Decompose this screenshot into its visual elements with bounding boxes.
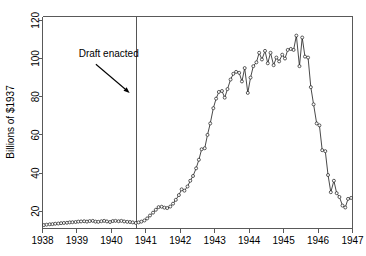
chart-annotations: Draft enacted	[79, 48, 139, 93]
y-tick-label: 40	[30, 167, 41, 179]
data-point-marker	[278, 60, 281, 63]
data-point-marker	[206, 133, 209, 136]
line-chart: 20406080100120 1938193919401941194219431…	[0, 0, 366, 256]
data-point-marker	[146, 217, 149, 220]
data-point-marker	[114, 219, 117, 222]
y-tick-label: 60	[30, 129, 41, 141]
data-point-marker	[215, 97, 218, 100]
data-point-marker	[344, 206, 347, 209]
data-point-marker	[123, 220, 126, 223]
x-tick-label: 1940	[100, 235, 123, 246]
data-point-marker	[217, 90, 220, 93]
y-tick-label: 80	[30, 91, 41, 103]
x-tick-label: 1944	[238, 235, 261, 246]
data-point-marker	[174, 198, 177, 201]
data-point-marker	[195, 167, 198, 170]
data-point-marker	[269, 51, 272, 54]
data-point-marker	[177, 194, 180, 197]
data-point-marker	[292, 48, 295, 51]
data-point-marker	[264, 49, 267, 52]
data-point-marker	[341, 204, 344, 207]
chart-container: 20406080100120 1938193919401941194219431…	[0, 0, 366, 256]
data-point-marker	[62, 221, 65, 224]
data-point-marker	[309, 86, 312, 89]
data-point-marker	[255, 61, 258, 64]
x-tick-label: 1941	[135, 235, 158, 246]
data-point-marker	[307, 56, 310, 59]
data-point-marker	[252, 65, 255, 68]
data-point-marker	[45, 223, 48, 226]
data-point-marker	[332, 179, 335, 182]
data-point-marker	[88, 220, 91, 223]
data-point-marker	[329, 191, 332, 194]
data-point-marker	[166, 207, 169, 210]
data-point-marker	[243, 67, 246, 70]
data-point-marker	[283, 57, 286, 60]
data-point-marker	[324, 150, 327, 153]
y-tick-label: 20	[30, 205, 41, 217]
data-point-marker	[350, 196, 353, 199]
data-point-marker	[148, 214, 151, 217]
x-tick-label: 1942	[169, 235, 192, 246]
data-point-marker	[301, 36, 304, 39]
data-point-marker	[240, 80, 243, 83]
data-point-marker	[223, 96, 226, 99]
data-point-marker	[272, 64, 275, 67]
data-point-marker	[266, 62, 269, 65]
data-point-marker	[105, 220, 108, 223]
series-line	[44, 36, 351, 225]
data-point-marker	[154, 208, 157, 211]
data-point-marker	[203, 147, 206, 150]
y-tick-label: 120	[30, 12, 41, 29]
data-point-marker	[295, 34, 298, 37]
data-point-marker	[318, 124, 321, 127]
data-point-marker	[140, 220, 143, 223]
data-point-marker	[220, 89, 223, 92]
data-point-marker	[186, 185, 189, 188]
data-point-marker	[235, 70, 238, 73]
data-point-marker	[172, 202, 175, 205]
data-point-marker	[192, 174, 195, 177]
y-axis-ticks: 20406080100120	[30, 12, 43, 217]
data-point-marker	[183, 189, 186, 192]
data-point-marker	[298, 65, 301, 68]
data-point-marker	[232, 72, 235, 75]
x-tick-label: 1946	[307, 235, 330, 246]
data-point-marker	[226, 88, 229, 91]
data-point-marker	[97, 220, 100, 223]
data-series	[42, 34, 352, 226]
y-tick-label: 100	[30, 50, 41, 67]
data-point-marker	[212, 107, 215, 110]
x-tick-label: 1945	[272, 235, 295, 246]
data-point-marker	[281, 53, 284, 56]
data-point-marker	[200, 148, 203, 151]
data-point-marker	[249, 76, 252, 79]
data-point-marker	[209, 122, 212, 125]
data-point-marker	[80, 220, 83, 223]
data-point-marker	[238, 71, 241, 74]
data-point-marker	[157, 206, 160, 209]
x-tick-label: 1939	[66, 235, 89, 246]
data-point-marker	[54, 222, 57, 225]
data-point-marker	[246, 91, 249, 94]
data-point-marker	[312, 103, 315, 106]
data-point-marker	[189, 179, 192, 182]
data-point-marker	[275, 56, 278, 59]
annotation-arrow-shaft	[96, 64, 125, 89]
data-point-marker	[169, 205, 172, 208]
data-point-marker	[347, 197, 350, 200]
annotation-label: Draft enacted	[79, 48, 139, 59]
data-point-marker	[143, 219, 146, 222]
x-axis-ticks: 1938193919401941194219431944194519461947	[31, 229, 364, 246]
data-point-marker	[338, 195, 341, 198]
data-point-marker	[131, 221, 134, 224]
data-point-marker	[335, 192, 338, 195]
data-point-marker	[229, 78, 232, 81]
data-point-marker	[303, 55, 306, 58]
data-point-marker	[71, 221, 74, 224]
data-point-marker	[286, 48, 289, 51]
data-point-marker	[327, 174, 330, 177]
data-point-marker	[260, 58, 263, 61]
x-tick-label: 1938	[31, 235, 54, 246]
y-axis-title: Billions of $1937	[5, 85, 16, 159]
